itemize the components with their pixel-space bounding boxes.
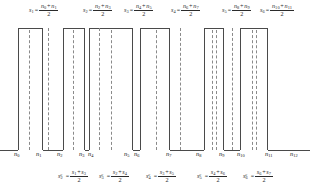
pulse-5-center-dash [212, 30, 213, 150]
top-formula-1: s1=n0+n12 [29, 3, 58, 18]
fraction-numerator: n6+n7 [181, 3, 200, 10]
fraction-denominator: 2 [189, 11, 192, 18]
bottom-formula-2: s3c=s2+s42 [99, 169, 129, 184]
fraction-numerator: s3+s5 [158, 169, 175, 176]
pulse-1 [18, 28, 43, 150]
formula-lhs: s2c [58, 173, 64, 179]
fraction: n8+n92 [232, 3, 251, 18]
equals-sign: = [107, 173, 110, 179]
formula-lhs: s5c [197, 173, 203, 179]
fraction-numerator: s4+s6 [209, 169, 226, 176]
equals-sign: = [35, 7, 38, 13]
top-formula-2: s2=n2+n32 [83, 3, 112, 18]
fraction: s3+s52 [158, 169, 175, 184]
fraction-numerator: n10+n11 [270, 3, 293, 10]
axis-label-n9: n9 [219, 151, 224, 157]
formula-lhs: s6c [243, 173, 249, 179]
bottom-formula-1: s2c=s1+s32 [58, 169, 88, 184]
fraction: s1+s32 [70, 169, 87, 184]
pulse-6-center-dash-2 [256, 30, 257, 150]
formula-lhs: s3c [99, 173, 105, 179]
axis-label-n6: n6 [134, 151, 139, 157]
fraction: n2+n32 [93, 3, 112, 18]
fraction-denominator: 2 [240, 11, 243, 18]
fraction-denominator: 2 [47, 11, 50, 18]
pulse-6-center-dash [252, 30, 253, 150]
fraction-numerator: n8+n9 [232, 3, 251, 10]
top-formula-5: s5=n8+n92 [222, 3, 251, 18]
axis-label-n12: n12 [290, 151, 298, 157]
formula-lhs: s6 [260, 7, 265, 13]
formula-lhs: s4c [146, 173, 152, 179]
fraction-numerator: s2+s4 [111, 169, 128, 176]
fraction-denominator: 2 [216, 177, 219, 184]
pulse-6 [240, 28, 268, 150]
equals-sign: = [177, 7, 180, 13]
bottom-formula-3: s4c=s3+s52 [146, 169, 176, 184]
fraction-denominator: 2 [142, 11, 145, 18]
top-formula-3: s3=n4+n52 [124, 3, 153, 18]
equals-sign: = [89, 7, 92, 13]
pulse-4-center-dash [156, 30, 157, 150]
diagram-canvas: s1=n0+n12s2=n2+n32s3=n4+n52s4=n6+n72s5=n… [0, 0, 310, 192]
guide-dash-3 [180, 28, 181, 150]
pulse-1-center-dash [29, 30, 30, 150]
guide-dash-4 [232, 28, 233, 150]
fraction-denominator: 2 [118, 177, 121, 184]
axis-label-n2: n2 [57, 151, 62, 157]
axis-label-n3: n3 [79, 151, 84, 157]
pulse-5-center-dash-2 [216, 30, 217, 150]
formula-lhs: s4 [171, 7, 176, 13]
fraction-denominator: 2 [280, 11, 283, 18]
equals-sign: = [205, 173, 208, 179]
axis-label-n4: n4 [88, 151, 93, 157]
guide-dash-2 [99, 28, 100, 150]
axis-label-n1: n1 [36, 151, 41, 157]
fraction-denominator: 2 [262, 177, 265, 184]
fraction: s6+s72 [255, 169, 272, 184]
fraction: n6+n72 [181, 3, 200, 18]
fraction: s4+s62 [209, 169, 226, 184]
formula-lhs: s5 [222, 7, 227, 13]
fraction: n10+n112 [270, 3, 293, 18]
equals-sign: = [130, 7, 133, 13]
baseline-segment-7 [268, 150, 310, 151]
fraction-denominator: 2 [101, 11, 104, 18]
fraction: n4+n52 [134, 3, 153, 18]
axis-label-n8: n8 [196, 151, 201, 157]
axis-label-n0: n0 [14, 151, 19, 157]
equals-sign: = [154, 173, 157, 179]
fraction-denominator: 2 [165, 177, 168, 184]
pulse-3-center-dash [111, 30, 112, 150]
formula-lhs: s1 [29, 7, 34, 13]
axis-label-n10: n10 [237, 151, 245, 157]
guide-dash-1 [48, 28, 49, 150]
bottom-formula-5: s6c=s6+s72 [243, 169, 273, 184]
pulse-5 [204, 28, 224, 150]
bottom-formula-4: s5c=s4+s62 [197, 169, 227, 184]
formula-lhs: s2 [83, 7, 88, 13]
top-formula-4: s4=n6+n72 [171, 3, 200, 18]
fraction-numerator: n2+n3 [93, 3, 112, 10]
pulse-2-center-dash [73, 30, 74, 150]
axis-label-n7: n7 [166, 151, 171, 157]
axis-label-n5: n5 [124, 151, 129, 157]
equals-sign: = [266, 7, 269, 13]
pulse-2 [63, 28, 85, 150]
fraction-denominator: 2 [77, 177, 80, 184]
fraction-numerator: n0+n1 [39, 3, 58, 10]
equals-sign: = [66, 173, 69, 179]
fraction-numerator: s1+s3 [70, 169, 87, 176]
fraction-numerator: n4+n5 [134, 3, 153, 10]
axis-label-n11: n11 [265, 151, 272, 157]
formula-lhs: s3 [124, 7, 129, 13]
equals-sign: = [251, 173, 254, 179]
top-formula-6: s6=n10+n112 [260, 3, 294, 18]
equals-sign: = [228, 7, 231, 13]
fraction: s2+s42 [111, 169, 128, 184]
fraction: n0+n12 [39, 3, 58, 18]
fraction-numerator: s6+s7 [255, 169, 272, 176]
